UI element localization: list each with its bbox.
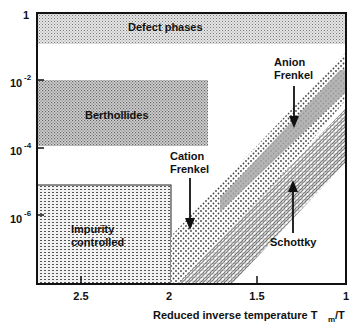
anion-frenkel-label-line1: Anion — [274, 56, 305, 68]
impurity-label-line2: controlled — [71, 236, 124, 248]
y-tick-label: 10 -4 — [10, 141, 32, 157]
svg-text:-6: -6 — [24, 209, 32, 218]
svg-text:10: 10 — [10, 77, 22, 89]
x-tick-label: 2 — [166, 290, 172, 302]
y-tick-label: 10 -6 — [10, 209, 32, 225]
y-tick-label: 1 — [23, 9, 29, 21]
y-tick-label: 10 -2 — [10, 73, 32, 89]
svg-text:10: 10 — [10, 213, 22, 225]
cation-frenkel-label-line2: Frenkel — [170, 163, 209, 175]
svg-text:Reduced inverse temperature T: Reduced inverse temperature T — [153, 309, 318, 321]
svg-text:/T: /T — [335, 309, 345, 321]
impurity-label-line1: Impurity — [71, 223, 115, 235]
anion-frenkel-label-line2: Frenkel — [274, 69, 313, 81]
svg-text:-2: -2 — [24, 73, 32, 82]
x-tick-label: 2.5 — [73, 290, 88, 302]
svg-text:-4: -4 — [24, 141, 32, 150]
svg-text:10: 10 — [10, 145, 22, 157]
defect-regime-diagram: 1 10 -2 10 -4 10 -6 2.5 2 1.5 1 Reduced … — [0, 0, 358, 325]
cation-frenkel-label-line1: Cation — [170, 150, 205, 162]
x-axis-title: Reduced inverse temperature T m /T — [153, 309, 345, 324]
berthollides-label: Berthollides — [85, 109, 149, 121]
schottky-label: Schottky — [270, 236, 317, 248]
x-tick-label: 1 — [343, 290, 349, 302]
defect-phases-label: Defect phases — [128, 21, 203, 33]
x-tick-label: 1.5 — [249, 290, 264, 302]
